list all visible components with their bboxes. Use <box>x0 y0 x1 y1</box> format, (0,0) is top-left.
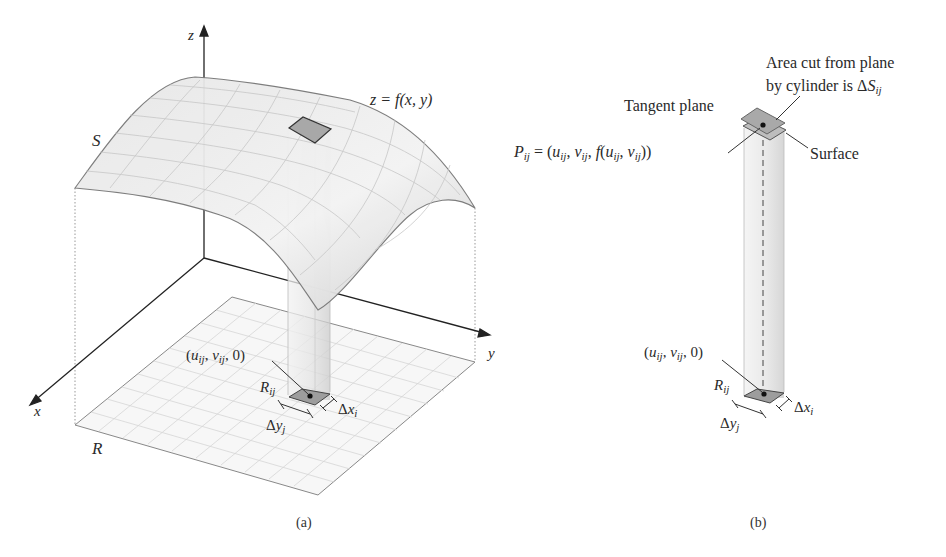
area-leader <box>776 96 800 120</box>
z-axis-label: z <box>188 28 194 43</box>
delta-y-label-b: Δyj <box>720 416 739 433</box>
surface-label: Surface <box>810 146 859 162</box>
figure-b <box>722 96 808 418</box>
function-label: z = f(x, y) <box>370 92 432 108</box>
delta-y-label: Δyj <box>266 418 285 435</box>
surface-s-label: S <box>92 132 101 149</box>
surface-leader <box>786 133 808 148</box>
base-point-label: (uij, vij, 0) <box>186 348 245 365</box>
region-r-label: R <box>92 440 102 457</box>
tangent-plane-label: Tangent plane <box>624 98 714 114</box>
base-point-label-b: (uij, vij, 0) <box>644 345 703 362</box>
z-axis-arrow-icon <box>200 26 208 36</box>
area-note-line2: by cylinder is ΔSij <box>766 78 882 96</box>
column-b <box>744 128 784 398</box>
area-note-line1: Area cut from plane <box>766 55 894 71</box>
caption-a: (a) <box>296 515 312 531</box>
y-axis-arrow-icon <box>478 329 490 337</box>
point-pij-dot <box>760 122 765 127</box>
delta-x-label-b: Δxi <box>794 400 813 417</box>
surface-s <box>75 77 475 310</box>
y-axis-label: y <box>488 346 495 361</box>
subregion-rij-label-b: Rij <box>714 378 729 395</box>
subregion-rij-label: Rij <box>260 380 275 397</box>
delta-x-label: Δxi <box>338 402 357 419</box>
caption-b: (b) <box>750 515 766 531</box>
point-pij-label: Pij = (uij, vij, f(uij, vij)) <box>514 144 651 162</box>
base-point-dot <box>307 393 312 398</box>
x-axis-label: x <box>34 404 41 419</box>
